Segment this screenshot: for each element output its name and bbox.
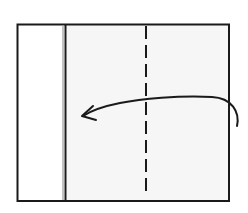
origami-fold-diagram: [0, 0, 248, 213]
left-flap-panel: [17, 24, 64, 201]
